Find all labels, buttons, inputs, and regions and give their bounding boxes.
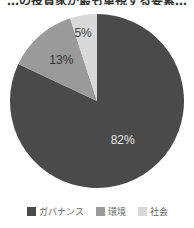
legend-label: 環境 [108,205,126,218]
slice-label: 5% [74,26,91,40]
legend-label: ガバナンス [39,205,84,218]
slice-label: 13% [49,53,73,67]
legend-item-governance: ガバナンス [27,205,84,218]
legend-swatch [138,207,147,216]
slice-label: 82% [111,133,135,147]
legend-swatch [96,207,105,216]
legend-item-social: 社会 [138,205,168,218]
pie-chart [0,0,194,228]
legend-swatch [27,207,36,216]
legend-label: 社会 [150,205,168,218]
legend-item-environment: 環境 [96,205,126,218]
legend: ガバナンス 環境 社会 [0,205,194,218]
